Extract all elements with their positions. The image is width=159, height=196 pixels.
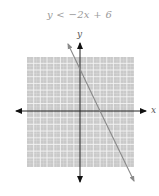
coordinate-plane (0, 0, 159, 196)
